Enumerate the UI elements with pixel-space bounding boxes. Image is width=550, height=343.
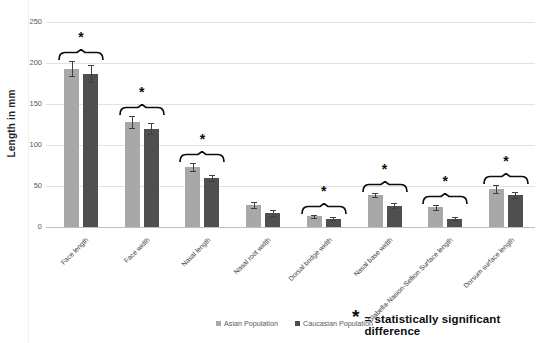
x-category-label: Nasal root width [233, 236, 272, 275]
caucasian-bar [508, 195, 523, 227]
error-bar-bottom-cap [311, 218, 317, 219]
significance-bracket [301, 200, 347, 211]
significance-asterisk: * [314, 184, 334, 198]
error-bar-bottom-cap [452, 220, 458, 221]
x-category-label: Face length [60, 236, 90, 266]
error-bar [193, 163, 194, 171]
gridline [46, 63, 535, 64]
asian-bar [489, 189, 504, 227]
error-bar-top-cap [311, 215, 317, 216]
error-bar [496, 185, 497, 193]
significance-bracket [58, 46, 104, 57]
x-category-label: Dorsum surface length [462, 236, 515, 289]
x-category-label: Dorsal bridge width [287, 236, 333, 282]
y-tick-label: 0 [18, 223, 42, 231]
caucasian-bar [144, 129, 159, 227]
x-category-label: Nasal length [180, 236, 212, 268]
error-bar-top-cap [69, 61, 75, 62]
y-tick-label: 150 [18, 100, 42, 108]
error-bar-top-cap [512, 192, 518, 193]
error-bar-top-cap [372, 193, 378, 194]
x-category-label: Face width [122, 236, 150, 264]
significance-bracket [422, 190, 468, 201]
error-bar [91, 65, 92, 81]
y-tick-label: 250 [18, 18, 42, 26]
asian-bar [185, 167, 200, 227]
legend: Asian Population Caucasian Population [216, 319, 373, 328]
error-bar-top-cap [129, 116, 135, 117]
error-bar-bottom-cap [69, 76, 75, 77]
significance-asterisk: * [132, 85, 152, 99]
error-bar-top-cap [251, 202, 257, 203]
error-bar-top-cap [433, 205, 439, 206]
significance-asterisk: * [192, 132, 212, 146]
significance-bracket [119, 101, 165, 112]
bar-chart-figure: Length in mm Asian Population Caucasian … [0, 0, 550, 343]
gridline [46, 145, 535, 146]
error-bar-bottom-cap [129, 128, 135, 129]
error-bar [72, 61, 73, 76]
error-bar-top-cap [493, 185, 499, 186]
asian-bar [125, 122, 140, 227]
error-bar-top-cap [330, 217, 336, 218]
error-bar-top-cap [452, 217, 458, 218]
significance-asterisk: * [435, 174, 455, 188]
scan-artifact-line [28, 0, 29, 343]
asian-bar [64, 69, 79, 227]
y-axis-title: Length in mm [6, 69, 17, 179]
y-tick-label: 50 [18, 182, 42, 190]
caucasian-bar [83, 74, 98, 227]
asian-bar [368, 195, 383, 227]
error-bar-top-cap [88, 65, 94, 66]
error-bar-top-cap [209, 175, 215, 176]
significance-asterisk: * [496, 154, 516, 168]
caucasian-population-swatch [295, 321, 300, 326]
error-bar-bottom-cap [391, 208, 397, 209]
error-bar-top-cap [270, 210, 276, 211]
error-bar-bottom-cap [433, 210, 439, 211]
significance-bracket [483, 170, 529, 181]
y-tick-label: 100 [18, 141, 42, 149]
error-bar-bottom-cap [190, 171, 196, 172]
error-bar-bottom-cap [88, 82, 94, 83]
legend-label-asian-population: Asian Population [224, 319, 278, 328]
asterisk-symbol: * [352, 306, 359, 328]
significance-bracket [362, 178, 408, 189]
error-bar-bottom-cap [251, 208, 257, 209]
significance-asterisk: * [375, 162, 395, 176]
asian-population-swatch [216, 321, 221, 326]
significance-annotation-text: = statistically significant difference [364, 313, 550, 337]
significance-asterisk: * [71, 30, 91, 44]
y-tick-label: 200 [18, 59, 42, 67]
x-category-label: Nasal base width [352, 236, 394, 278]
significance-bracket [179, 148, 225, 159]
error-bar-bottom-cap [270, 216, 276, 217]
error-bar [151, 123, 152, 134]
caucasian-bar [204, 178, 219, 227]
error-bar-top-cap [190, 163, 196, 164]
error-bar-bottom-cap [330, 220, 336, 221]
gridline [46, 186, 535, 187]
gridline [46, 22, 535, 23]
x-axis-line [46, 227, 535, 228]
error-bar-bottom-cap [512, 198, 518, 199]
error-bar-bottom-cap [209, 181, 215, 182]
error-bar-top-cap [391, 203, 397, 204]
error-bar-bottom-cap [148, 134, 154, 135]
error-bar-top-cap [148, 123, 154, 124]
legend-item-asian-population: Asian Population [216, 319, 278, 328]
error-bar-bottom-cap [493, 193, 499, 194]
error-bar [132, 116, 133, 127]
error-bar-bottom-cap [372, 197, 378, 198]
